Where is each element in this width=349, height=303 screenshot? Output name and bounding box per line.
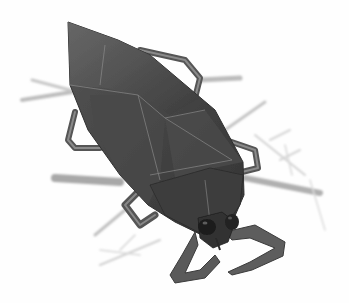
water-bug-illustration <box>0 0 349 303</box>
illustration-canvas <box>0 0 349 303</box>
